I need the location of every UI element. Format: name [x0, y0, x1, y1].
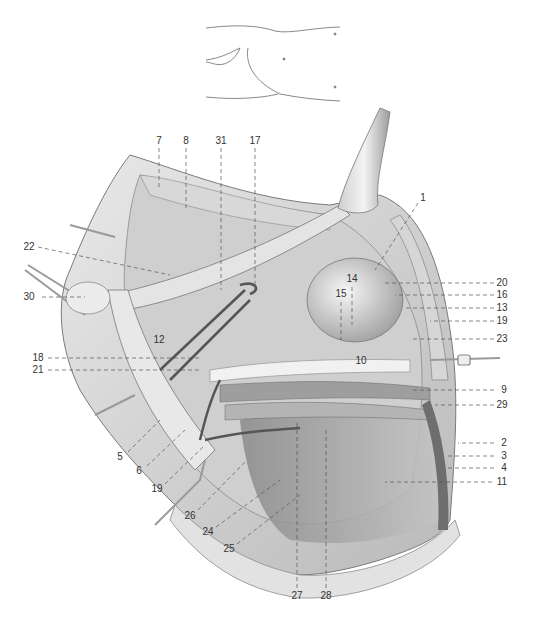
label-2: 2	[501, 438, 507, 448]
label-5: 5	[117, 452, 123, 462]
label-19: 19	[496, 316, 507, 326]
label-16: 16	[496, 290, 507, 300]
label-10: 10	[355, 356, 366, 366]
label-30: 30	[23, 292, 34, 302]
label-13: 13	[496, 303, 507, 313]
label-7: 7	[156, 136, 162, 146]
label-19-lower: 19	[151, 484, 162, 494]
illustration	[0, 0, 534, 623]
label-9: 9	[501, 385, 507, 395]
anatomy-figure: 1 2 3 4 5 6 7 8 9 10 11 12 13 14 15 16 1…	[0, 0, 534, 623]
label-22: 22	[23, 242, 34, 252]
retractor-right	[458, 355, 470, 365]
label-20: 20	[496, 278, 507, 288]
label-28: 28	[320, 591, 331, 601]
label-17: 17	[249, 136, 260, 146]
femoral-head	[307, 258, 403, 342]
label-25: 25	[223, 544, 234, 554]
label-4: 4	[501, 463, 507, 473]
label-3: 3	[501, 451, 507, 461]
orientation-inset	[206, 26, 340, 101]
label-23: 23	[496, 334, 507, 344]
label-21: 21	[32, 365, 43, 375]
label-6: 6	[136, 466, 142, 476]
label-15: 15	[335, 289, 346, 299]
label-14: 14	[346, 274, 357, 284]
label-11: 11	[497, 477, 507, 487]
label-18: 18	[32, 353, 43, 363]
label-27: 27	[291, 591, 302, 601]
bone-30	[66, 282, 110, 314]
label-24: 24	[202, 527, 213, 537]
label-26: 26	[184, 511, 195, 521]
label-29: 29	[496, 400, 507, 410]
label-1: 1	[420, 193, 426, 203]
label-8: 8	[183, 136, 189, 146]
label-31: 31	[215, 136, 226, 146]
label-12: 12	[153, 335, 164, 345]
